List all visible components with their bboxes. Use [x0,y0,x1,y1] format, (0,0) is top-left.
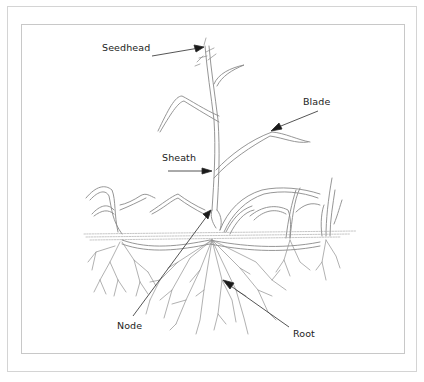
root-label: Root [293,328,315,339]
node-label: Node [117,320,142,331]
right-clump [220,178,342,238]
soil-line [84,231,356,240]
blade [214,132,310,178]
node-arrow-icon [203,210,211,219]
sheath-label: Sheath [162,152,196,163]
leader-lines [133,45,318,327]
main-stem [205,46,219,210]
left-clump [86,187,205,234]
blade-arrow-icon [271,123,282,131]
seedhead-label: Seedhead [102,42,150,53]
left-leaf [158,96,219,132]
grass-plant-illustration [0,0,424,382]
sheath-arrow-icon [202,168,212,174]
blade-leader [276,111,318,128]
node-leader [133,216,207,316]
blade-label: Blade [303,96,330,107]
seedhead-leader [152,48,199,56]
seedhead-arrow-icon [194,45,204,52]
root-arrow-icon [223,280,234,289]
